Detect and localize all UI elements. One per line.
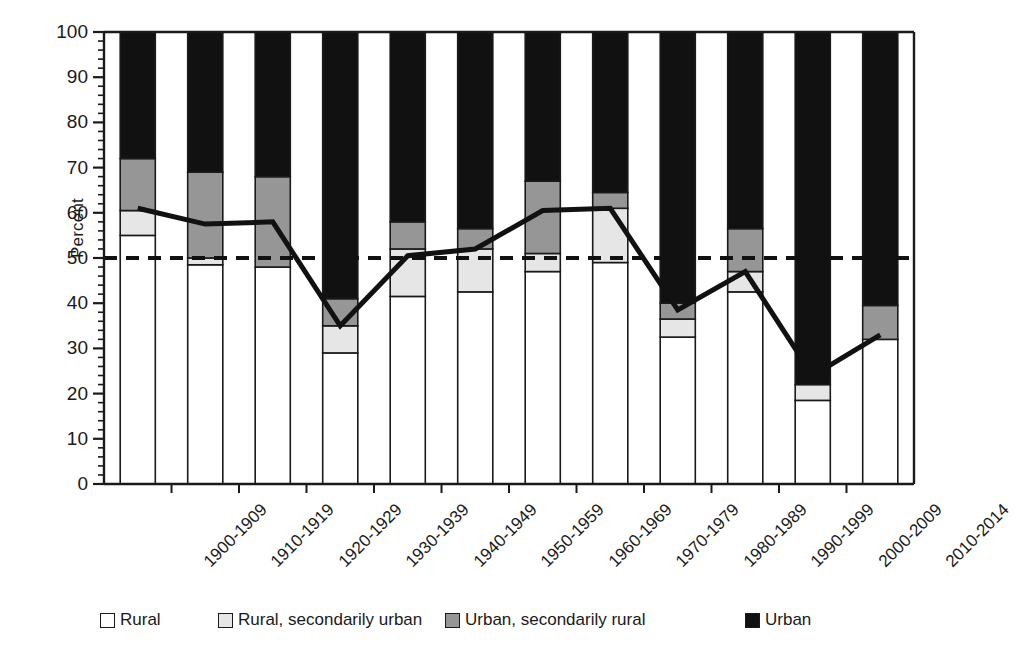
legend-item: Urban [745,610,811,630]
bar-segment [795,385,830,401]
bar-segment [863,339,898,484]
legend-item: Rural, secondarily urban [218,610,422,630]
x-axis-ticks [172,484,847,493]
trend-line [138,208,881,375]
bar-segment [390,32,425,222]
bar-segment [863,305,898,339]
bar-segment [593,263,628,484]
chart-legend: RuralRural, secondarily urbanUrban, seco… [100,605,890,635]
bar-segment [458,249,493,292]
legend-label: Rural [120,610,161,630]
legend-swatch-icon [745,613,760,628]
bar-segment [390,222,425,249]
bar-segment [593,208,628,262]
bar-segment [255,32,290,177]
bar-segment [390,296,425,484]
bar-segment [323,326,358,353]
bar-segment [863,32,898,305]
bar-segment [255,267,290,484]
bar-segment [795,400,830,484]
bar-segment [120,159,155,211]
trend-polyline [138,208,881,375]
bar-segment [660,319,695,337]
bar-segment [728,229,763,272]
bar-segment [188,172,223,258]
bar-segment [728,32,763,229]
legend-label: Urban [765,610,811,630]
legend-item: Rural [100,610,161,630]
bar-segment [525,272,560,484]
bar-segment [323,353,358,484]
legend-label: Urban, secondarily rural [465,610,645,630]
bar-segment [660,32,695,303]
bar-segment [120,211,155,236]
y-axis-major-ticks [93,32,104,484]
legend-swatch-icon [218,613,233,628]
bar-segment [458,32,493,229]
legend-item: Urban, secondarily rural [445,610,645,630]
bar-segment [120,32,155,159]
legend-swatch-icon [445,613,460,628]
bar-segment [593,32,628,192]
bar-segment [120,235,155,484]
bar-segment [660,337,695,484]
bar-segment [795,32,830,385]
bar-segment [458,229,493,249]
bar-segment [728,292,763,484]
bar-segment [525,32,560,181]
bar-segment [458,292,493,484]
bar-segment [188,265,223,484]
legend-label: Rural, secondarily urban [238,610,422,630]
bar-segment [188,32,223,172]
legend-swatch-icon [100,613,115,628]
